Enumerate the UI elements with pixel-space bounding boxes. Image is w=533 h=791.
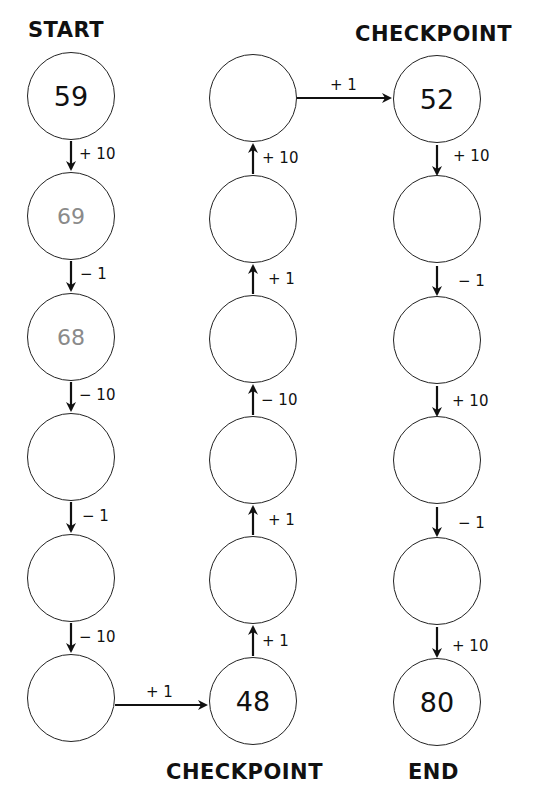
op-middle-to-right: + 1 [330, 76, 357, 94]
node-left-4[interactable] [27, 413, 115, 501]
node-left-6[interactable] [27, 654, 115, 742]
node-value: 80 [420, 687, 454, 718]
op-right-1: + 10 [453, 147, 489, 165]
node-left-3[interactable]: 68 [27, 293, 115, 381]
node-right-1[interactable]: 52 [393, 55, 481, 143]
op-right-4: − 1 [458, 514, 485, 532]
node-middle-3[interactable] [209, 295, 297, 383]
node-right-2[interactable] [393, 175, 481, 263]
op-middle-4: + 1 [268, 270, 295, 288]
node-middle-2[interactable] [209, 175, 297, 263]
node-value: 48 [236, 686, 270, 717]
node-left-5[interactable] [27, 534, 115, 622]
node-value: 69 [57, 204, 85, 229]
node-middle-6[interactable]: 48 [209, 657, 297, 745]
op-left-3: − 10 [79, 386, 115, 404]
op-right-2: − 1 [458, 272, 485, 290]
node-right-5[interactable] [393, 537, 481, 625]
node-left-1[interactable]: 59 [27, 52, 115, 140]
node-right-6[interactable]: 80 [393, 658, 481, 746]
op-right-3: + 10 [452, 392, 488, 410]
op-left-5: − 10 [79, 628, 115, 646]
node-value: 59 [54, 81, 88, 112]
node-value: 52 [420, 84, 454, 115]
op-middle-1: + 1 [262, 632, 289, 650]
node-middle-1[interactable] [209, 54, 297, 142]
op-middle-2: + 1 [268, 511, 295, 529]
node-middle-5[interactable] [209, 536, 297, 624]
node-value: 68 [57, 325, 85, 350]
number-chain-diagram: START CHECKPOINT CHECKPOINT END [0, 0, 533, 791]
op-left-2: − 1 [80, 265, 107, 283]
op-middle-5: + 10 [262, 149, 298, 167]
op-right-5: + 10 [452, 637, 488, 655]
op-left-4: − 1 [82, 507, 109, 525]
op-left-to-middle: + 1 [146, 683, 173, 701]
node-left-2[interactable]: 69 [27, 172, 115, 260]
node-middle-4[interactable] [209, 416, 297, 504]
op-middle-3: − 10 [261, 391, 297, 409]
node-right-4[interactable] [393, 416, 481, 504]
node-right-3[interactable] [393, 296, 481, 384]
op-left-1: + 10 [79, 145, 115, 163]
